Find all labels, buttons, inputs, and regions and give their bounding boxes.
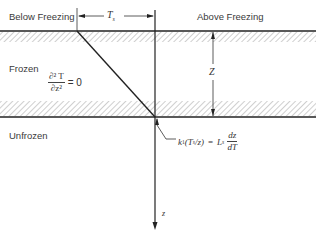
below-freezing-label: Below Freezing — [9, 12, 74, 22]
z-dimension-label: Z — [209, 67, 215, 77]
surface-hatch-band — [0, 32, 316, 42]
frost-penetration-diagram: Below Freezing Above Freezing Frozen Unf… — [0, 0, 322, 240]
diagram-graphics — [0, 0, 322, 240]
unfrozen-label: Unfrozen — [9, 131, 48, 141]
interface-stefan-equation: k1 (Ts/z) = Ls dz dT — [178, 131, 237, 152]
above-freezing-label: Above Freezing — [197, 12, 264, 22]
depth-axis-label: z — [162, 210, 165, 218]
laplace-equation: ∂² T ∂z² = 0 — [48, 72, 82, 93]
freezing-front-hatch-band — [0, 101, 316, 116]
frozen-label: Frozen — [9, 64, 39, 74]
ts-right-arrow-icon — [147, 14, 154, 18]
leader-arrow-icon — [155, 118, 159, 125]
ts-dimension-label: Ts — [107, 10, 115, 22]
depth-arrowhead-icon — [153, 222, 158, 230]
ts-left-arrow-icon — [78, 14, 85, 18]
interface-equation-leader — [157, 119, 176, 139]
